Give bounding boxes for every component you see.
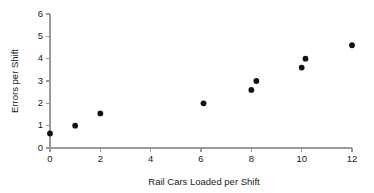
data-point xyxy=(97,110,103,116)
data-point xyxy=(349,42,355,48)
y-tick-label: 1 xyxy=(38,119,43,130)
data-points-layer xyxy=(47,42,355,136)
data-point xyxy=(299,65,305,71)
x-tick-label: 8 xyxy=(249,153,254,164)
data-point xyxy=(201,100,207,106)
x-tick-label: 4 xyxy=(148,153,153,164)
data-point xyxy=(248,87,254,93)
scatter-plot-figure: 0123456 024681012 Rail Cars Loaded per S… xyxy=(0,0,374,193)
y-tick-label: 2 xyxy=(38,97,43,108)
y-axis-title: Errors per Shift xyxy=(9,49,20,113)
x-axis-title: Rail Cars Loaded per Shift xyxy=(148,176,260,187)
y-tick-label: 6 xyxy=(38,8,43,19)
x-tick-label: 6 xyxy=(198,153,203,164)
y-tick-label: 5 xyxy=(38,30,43,41)
data-point xyxy=(47,131,53,137)
y-tick-label: 4 xyxy=(38,52,43,63)
data-point xyxy=(72,123,78,129)
y-axis: 0123456 xyxy=(38,8,50,153)
x-tick-label: 12 xyxy=(347,153,358,164)
x-tick-label: 0 xyxy=(47,153,52,164)
x-tick-label: 10 xyxy=(296,153,307,164)
data-point xyxy=(253,78,259,84)
x-tick-label: 2 xyxy=(98,153,103,164)
y-tick-label: 3 xyxy=(38,75,43,86)
x-axis: 024681012 xyxy=(47,148,357,164)
plot-canvas: 0123456 024681012 Rail Cars Loaded per S… xyxy=(0,0,374,193)
y-tick-label: 0 xyxy=(38,142,43,153)
data-point xyxy=(303,56,309,62)
